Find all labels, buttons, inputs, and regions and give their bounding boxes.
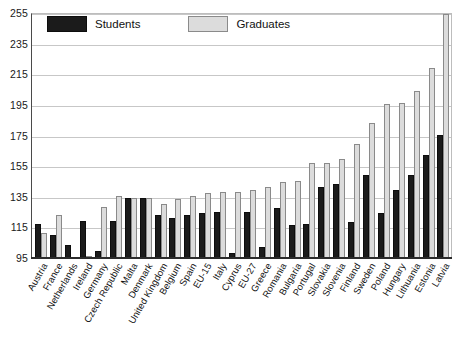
x-axis-tick: Czech Republic: [107, 259, 122, 338]
bar-group: [302, 14, 317, 259]
x-axis-tick: Sweden: [361, 259, 376, 338]
y-axis-tick-label: 155: [10, 161, 28, 171]
bar-group: [228, 14, 243, 259]
bar-group: [406, 14, 421, 259]
x-axis-tick: Romania: [271, 259, 286, 338]
bar-group: [242, 14, 257, 259]
bar-group: [49, 14, 64, 259]
bar-graduates: [295, 181, 301, 259]
x-axis-tick: Poland: [375, 259, 390, 338]
bar-graduates: [220, 192, 226, 259]
x-axis-tick: Portugal: [301, 259, 316, 338]
bar-group: [213, 14, 228, 259]
bar-graduates: [384, 104, 390, 259]
x-axis-tick: Finland: [346, 259, 361, 338]
bar-graduates: [146, 198, 152, 259]
bar-graduates: [339, 159, 345, 259]
x-axis-tick: EU-15: [197, 259, 212, 338]
x-axis-tick: Slovenia: [331, 259, 346, 338]
y-axis-tick-label: 195: [10, 100, 28, 110]
x-axis-tick: Spain: [182, 259, 197, 338]
bar-graduates: [354, 144, 360, 259]
bar-group: [436, 14, 451, 259]
bar-group: [317, 14, 332, 259]
bar-graduates: [235, 192, 241, 259]
bar-graduates: [399, 103, 405, 259]
bar-group: [108, 14, 123, 259]
bar-group: [421, 14, 436, 259]
bar-graduates: [131, 198, 137, 259]
bar-graduates: [369, 123, 375, 259]
bar-group: [287, 14, 302, 259]
y-axis-tick-label: 95: [16, 253, 28, 263]
bar-chart: 95115135155175195215235255 AustriaFrance…: [0, 0, 452, 338]
bar-graduates: [41, 233, 47, 259]
bar-group: [138, 14, 153, 259]
bar-graduates: [429, 68, 435, 259]
bar-graduates: [205, 193, 211, 259]
x-axis-tick: Netherlands: [63, 259, 78, 338]
bar-group: [376, 14, 391, 259]
y-axis-tick-label: 115: [11, 222, 28, 232]
bar-graduates: [414, 91, 420, 259]
bar-graduates: [265, 187, 271, 259]
bar-group: [64, 14, 79, 259]
legend-entry-graduates: Graduates: [188, 16, 290, 32]
y-axis-tick-label: 235: [10, 39, 28, 49]
bar-graduates: [175, 199, 181, 259]
x-axis-tick: United Kingdom: [152, 259, 167, 338]
bar-group: [168, 14, 183, 259]
bar-group: [362, 14, 377, 259]
bar-graduates: [443, 14, 449, 259]
legend-swatch-graduates: [188, 16, 228, 32]
bar-graduates: [250, 190, 256, 259]
legend-label-students: Students: [95, 18, 140, 30]
x-axis-tick: Belgium: [167, 259, 182, 338]
plot-area: [31, 13, 452, 259]
bar-graduates: [116, 196, 122, 259]
legend-entry-students: Students: [47, 16, 140, 32]
bar-group: [347, 14, 362, 259]
x-axis-tick: Estonia: [420, 259, 435, 338]
y-axis-tick-label: 135: [10, 192, 28, 202]
bar-group: [153, 14, 168, 259]
bar-group: [332, 14, 347, 259]
bar-group: [183, 14, 198, 259]
bar-group: [34, 14, 49, 259]
x-axis-tick: Italy: [212, 259, 227, 338]
bar-graduates: [280, 182, 286, 259]
x-axis-tick: Cyprus: [227, 259, 242, 338]
y-axis-tick-label: 215: [10, 69, 28, 79]
bar-students: [80, 221, 86, 259]
x-axis-tick: Latvia: [435, 259, 450, 338]
legend-swatch-students: [47, 16, 87, 32]
bar-graduates: [190, 196, 196, 259]
y-axis-tick-label: 255: [10, 8, 28, 18]
bar-group: [198, 14, 213, 259]
x-axis: AustriaFranceNetherlandsIrelandGermanyCz…: [31, 259, 450, 338]
x-axis-tick: Lithuania: [405, 259, 420, 338]
bar-graduates: [324, 163, 330, 259]
bar-group: [123, 14, 138, 259]
x-axis-tick: Bulgaria: [286, 259, 301, 338]
legend-label-graduates: Graduates: [236, 18, 290, 30]
legend: Students Graduates: [47, 16, 290, 32]
x-axis-tick: EU-27: [241, 259, 256, 338]
bar-graduates: [309, 163, 315, 259]
bar-group: [94, 14, 109, 259]
bar-graduates: [101, 207, 107, 259]
bar-graduates: [56, 215, 62, 259]
bar-group: [257, 14, 272, 259]
bar-group: [79, 14, 94, 259]
bar-graduates: [161, 204, 167, 259]
bar-group: [391, 14, 406, 259]
bar-groups: [32, 14, 451, 259]
x-axis-tick: Austria: [33, 259, 48, 338]
y-axis-tick-label: 175: [10, 131, 28, 141]
bar-group: [272, 14, 287, 259]
